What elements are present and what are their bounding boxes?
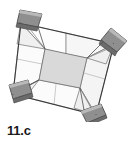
corner-flap-bottom-left bbox=[9, 80, 33, 103]
figure-caption: 11.c bbox=[7, 122, 127, 142]
folding-diagram bbox=[0, 0, 131, 122]
figure-container: 11.c bbox=[0, 0, 131, 146]
